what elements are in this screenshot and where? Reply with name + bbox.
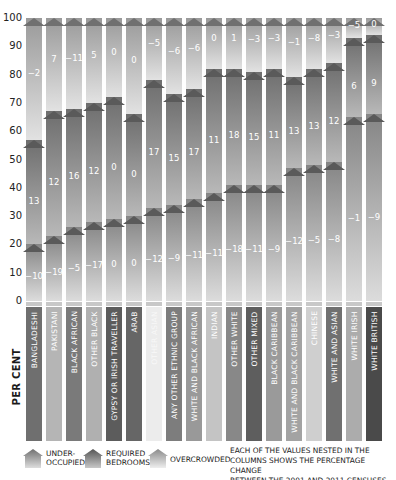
- change-overcrowded: −2: [20, 69, 48, 78]
- category-divider: [266, 302, 282, 306]
- category-divider: [366, 302, 382, 306]
- legend-overcrowded: OVERCROWDED: [170, 455, 231, 464]
- legend-required-bedrooms: REQUIRED BEDROOMS: [106, 449, 150, 467]
- segment-overcrowded: [46, 18, 62, 111]
- category-divider: [166, 302, 182, 306]
- y-axis-label: PER CENT: [11, 346, 22, 406]
- category-divider: [226, 302, 242, 306]
- segment-overcrowded: [246, 18, 262, 72]
- y-tick: 20: [0, 239, 22, 249]
- bar-column: −1213−1: [286, 0, 302, 301]
- category-label-bar: GYPSY OR IRISH TRAVELLER: [106, 307, 122, 441]
- house-roof-icon: [363, 107, 385, 115]
- house-roof-icon: [23, 237, 45, 245]
- house-roof-icon: [183, 192, 205, 200]
- category-divider: [206, 302, 222, 306]
- category-label-bar: PAKISTANI: [46, 307, 62, 441]
- house-roof-icon: [63, 102, 85, 110]
- bar-column: −16−5: [346, 0, 362, 301]
- house-roof-icon: [283, 11, 305, 19]
- change-required-bedrooms: 13: [20, 197, 48, 206]
- house-roof-icon: [363, 11, 385, 19]
- house-roof-icon: [343, 110, 365, 118]
- house-roof-icon: [203, 186, 225, 194]
- house-roof-icon: [243, 65, 265, 73]
- segment-required-bedrooms: [126, 114, 142, 216]
- house-roof-icon: [303, 158, 325, 166]
- house-roof-icon: [163, 198, 185, 206]
- bar-column: −17125: [86, 0, 102, 301]
- segment-required-bedrooms: [146, 80, 162, 207]
- segment-required-bedrooms: [326, 63, 342, 162]
- segment-required-bedrooms: [246, 72, 262, 185]
- overcrowded-house-icon: [147, 448, 169, 468]
- bar-column: −516−11: [66, 0, 82, 301]
- bar-column: 000: [106, 0, 122, 301]
- change-required-bedrooms: 17: [180, 148, 208, 157]
- required-bedrooms-house-icon: [82, 448, 104, 468]
- bar-column: −1115−3: [246, 0, 262, 301]
- category-label: OTHER ASIAN: [150, 311, 159, 365]
- segment-under-occupied: [286, 168, 302, 301]
- category-label: CHINESE: [310, 311, 319, 345]
- category-label-bar: OTHER BLACK: [86, 307, 102, 441]
- segment-required-bedrooms: [366, 35, 382, 114]
- category-label: OTHER MIXED: [250, 311, 259, 366]
- category-divider: [146, 302, 162, 306]
- segment-under-occupied: [226, 185, 242, 301]
- house-roof-icon: [323, 155, 345, 163]
- segment-required-bedrooms: [226, 69, 242, 185]
- house-roof-icon: [43, 229, 65, 237]
- house-roof-icon: [23, 133, 45, 141]
- segment-overcrowded: [286, 18, 302, 77]
- category-divider: [326, 302, 342, 306]
- house-roof-icon: [203, 62, 225, 70]
- house-roof-icon: [103, 11, 125, 19]
- category-label-bar: ANY OTHER ETHNIC GROUP: [166, 307, 182, 441]
- segment-under-occupied: [306, 165, 322, 301]
- y-tick: 30: [0, 211, 22, 221]
- category-label: ANY OTHER ETHNIC GROUP: [170, 311, 179, 419]
- house-roof-icon: [223, 62, 245, 70]
- house-roof-icon: [103, 90, 125, 98]
- house-roof-icon: [303, 11, 325, 19]
- segment-overcrowded: [86, 18, 102, 103]
- category-label: WHITE AND BLACK CARIBBEAN: [290, 311, 299, 432]
- category-divider: [126, 302, 142, 306]
- category-divider: [286, 302, 302, 306]
- house-roof-icon: [263, 178, 285, 186]
- change-under-occupied: −9: [360, 213, 388, 222]
- segment-overcrowded: [186, 18, 202, 89]
- category-label-bar: BANGLADESHI: [26, 307, 42, 441]
- house-roof-icon: [223, 11, 245, 19]
- category-label: GYPSY OR IRISH TRAVELLER: [110, 311, 119, 420]
- segment-under-occupied: [326, 162, 342, 301]
- category-label: INDIAN: [210, 311, 219, 339]
- house-roof-icon: [83, 11, 105, 19]
- house-roof-icon: [243, 178, 265, 186]
- category-label-bar: INDIAN: [206, 307, 222, 441]
- house-roof-icon: [343, 31, 365, 39]
- segment-under-occupied: [366, 114, 382, 301]
- y-tick: 10: [0, 268, 22, 278]
- category-label: WHITE AND ASIAN: [330, 311, 339, 383]
- category-label: WHITE BRITISH: [370, 311, 379, 370]
- category-label: WHITE AND BLACK AFRICAN: [190, 311, 199, 421]
- y-tick: 50: [0, 155, 22, 165]
- category-divider: [26, 302, 42, 306]
- house-roof-icon: [63, 220, 85, 228]
- category-label-bar: WHITE BRITISH: [366, 307, 382, 441]
- category-divider: [246, 302, 262, 306]
- house-roof-icon: [43, 11, 65, 19]
- category-label: BANGLADESHI: [30, 311, 39, 368]
- house-roof-icon: [303, 62, 325, 70]
- house-roof-icon: [163, 11, 185, 19]
- category-divider: [66, 302, 82, 306]
- segment-required-bedrooms: [26, 140, 42, 245]
- segment-overcrowded: [26, 18, 42, 140]
- category-divider: [106, 302, 122, 306]
- category-label: BLACK CARIBBEAN: [270, 311, 279, 385]
- house-roof-icon: [123, 107, 145, 115]
- category-label-bar: OTHER ASIAN: [146, 307, 162, 441]
- change-overcrowded: −6: [180, 44, 208, 53]
